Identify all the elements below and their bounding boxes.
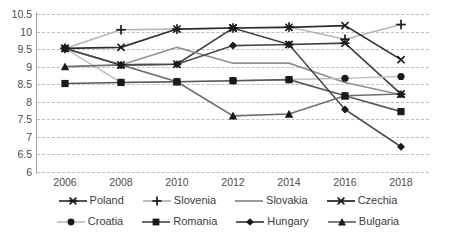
data-point-square [285,76,292,83]
y-axis-tick-label: 7 [0,132,32,143]
legend-row: PolandSloveniaSlovakiaCzechia [0,190,455,211]
data-point-square [61,80,68,87]
series-slovakia [65,47,401,94]
data-point-circle [397,73,404,80]
y-axis-tick-label: 8 [0,97,32,108]
y-axis-tick-label: 6 [0,167,32,178]
y-axis-tick-label: 7.5 [0,114,32,125]
data-point-diamond [229,42,237,50]
legend-item-slovenia[interactable]: Slovenia [142,194,216,208]
legend-item-bulgaria[interactable]: Bulgaria [327,215,399,229]
legend-swatch-bulgaria [327,215,357,229]
x-axis-tick-label: 2008 [99,177,143,188]
series-line [65,47,401,94]
data-point-plus [396,20,406,30]
y-axis-tick-label: 6.5 [0,149,32,160]
legend-swatch-czechia [326,194,356,208]
data-point-circle [341,75,348,82]
y-axis-tick-label: 8.5 [0,79,32,90]
legend-label: Poland [90,195,124,206]
x-axis-tick-label: 2018 [379,177,423,188]
line-chart: 10.5109.598.587.576.56 20062008201020122… [0,0,455,247]
legend-label: Romania [173,216,217,227]
data-point-diamond [246,218,254,226]
series-markers-poland [61,24,406,97]
legend-row: CroatiaRomaniaHungaryBulgaria [0,211,455,232]
legend-label: Slovakia [266,195,308,206]
y-axis-tick-label: 10 [0,27,32,38]
legend-swatch-slovenia [142,194,172,208]
data-point-square [117,79,124,86]
data-point-square [153,218,160,225]
legend-item-hungary[interactable]: Hungary [235,215,309,229]
chart-legend: PolandSloveniaSlovakiaCzechiaCroatiaRoma… [0,190,455,232]
x-axis-tick-label: 2014 [267,177,311,188]
data-point-x [397,56,404,63]
y-axis-tick-label: 9.5 [0,44,32,55]
y-axis-tick-label: 10.5 [0,9,32,20]
legend-label: Bulgaria [359,216,399,227]
x-axis-tick-label: 2016 [323,177,367,188]
data-point-circle [67,218,74,225]
legend-label: Slovenia [174,195,216,206]
series-bulgaria [65,65,401,116]
gridline [37,172,429,173]
legend-swatch-poland [58,194,88,208]
legend-label: Hungary [267,216,309,227]
legend-item-poland[interactable]: Poland [58,194,124,208]
y-axis-tick-label: 9 [0,62,32,73]
plot-area [37,14,429,172]
series-layer [37,14,429,172]
series-markers-bulgaria [61,61,405,120]
legend-item-romania[interactable]: Romania [141,215,217,229]
data-point-plus [152,196,161,205]
legend-swatch-hungary [235,215,265,229]
legend-swatch-croatia [56,215,86,229]
legend-swatch-slovakia [234,194,264,208]
data-point-square [397,108,404,115]
legend-label: Czechia [358,195,398,206]
x-axis-tick-label: 2006 [43,177,87,188]
x-axis-tick-label: 2012 [211,177,255,188]
legend-item-czechia[interactable]: Czechia [326,194,398,208]
legend-item-croatia[interactable]: Croatia [56,215,123,229]
legend-label: Croatia [88,216,123,227]
data-point-plus [116,25,126,35]
legend-swatch-romania [141,215,171,229]
series-line [65,65,401,116]
legend-item-slovakia[interactable]: Slovakia [234,194,308,208]
data-point-square [229,77,236,84]
x-axis-tick-label: 2010 [155,177,199,188]
data-point-x-asterisk [68,197,76,204]
